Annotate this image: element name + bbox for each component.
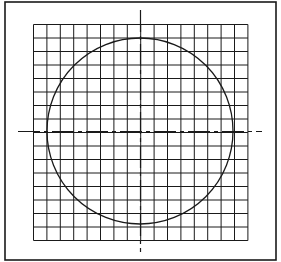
diagram-canvas	[0, 0, 281, 262]
circle-grid-diagram	[0, 0, 281, 262]
